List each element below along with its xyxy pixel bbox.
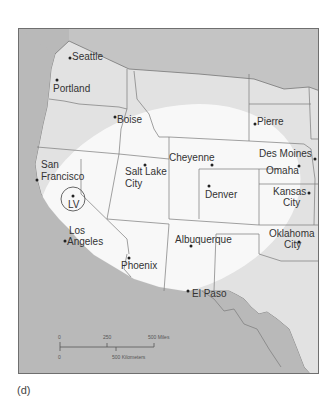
lv-label: LV bbox=[68, 199, 80, 210]
scale-miles-mid: 250 bbox=[103, 334, 112, 340]
city-el-paso: El Paso bbox=[192, 288, 227, 299]
city-los-angeles-line1: Los bbox=[69, 225, 85, 236]
map: LV Seattle Portland Boise Pierre San Fra… bbox=[18, 28, 319, 374]
city-kansas-city-line2: City bbox=[283, 197, 300, 208]
city-kansas-city-line1: Kansas bbox=[273, 186, 306, 197]
scale-miles-start: 0 bbox=[58, 334, 61, 340]
city-san-francisco-line1: San bbox=[41, 159, 59, 170]
city-cheyenne: Cheyenne bbox=[169, 152, 215, 163]
city-albuquerque: Albuquerque bbox=[175, 234, 232, 245]
city-portland: Portland bbox=[53, 83, 90, 94]
city-salt-lake-line1: Salt Lake bbox=[125, 166, 167, 177]
city-omaha: Omaha bbox=[266, 165, 299, 176]
city-pierre: Pierre bbox=[257, 116, 284, 127]
map-canvas: LV Seattle Portland Boise Pierre San Fra… bbox=[19, 29, 319, 374]
city-oklahoma-city-line1: Oklahoma bbox=[269, 228, 315, 239]
scale-miles-end: 500 Miles bbox=[148, 334, 170, 340]
city-san-francisco-line2: Francisco bbox=[41, 171, 85, 182]
scale-km-end: 500 Kilometers bbox=[112, 354, 146, 360]
city-salt-lake-line2: City bbox=[125, 178, 142, 189]
city-seattle: Seattle bbox=[72, 51, 104, 62]
figure-label: (d) bbox=[17, 384, 30, 396]
city-oklahoma-city-line2: City bbox=[284, 239, 301, 250]
city-los-angeles-line2: Angeles bbox=[67, 236, 103, 247]
city-phoenix: Phoenix bbox=[121, 260, 157, 271]
city-des-moines: Des Moines bbox=[259, 148, 312, 159]
city-denver: Denver bbox=[205, 189, 238, 200]
scale-km-start: 0 bbox=[58, 354, 61, 360]
city-boise: Boise bbox=[117, 114, 142, 125]
